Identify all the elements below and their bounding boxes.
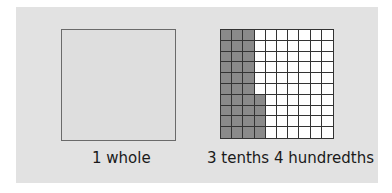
grid-cell bbox=[288, 84, 299, 95]
grid-cell bbox=[311, 73, 322, 84]
grid-cell bbox=[255, 116, 266, 127]
grid-cell bbox=[288, 116, 299, 127]
grid-cell bbox=[299, 62, 310, 73]
grid-cell bbox=[299, 84, 310, 95]
grid-cell bbox=[322, 30, 333, 41]
grid-cell bbox=[277, 30, 288, 41]
grid-cell bbox=[221, 127, 232, 138]
grid-cell bbox=[311, 41, 322, 52]
grid-cell bbox=[255, 95, 266, 106]
grid-cell bbox=[299, 41, 310, 52]
grid-cell bbox=[311, 116, 322, 127]
grid-cell bbox=[299, 116, 310, 127]
grid-cell bbox=[266, 73, 277, 84]
grid-cell bbox=[255, 127, 266, 138]
grid-cell bbox=[322, 41, 333, 52]
grid-cell bbox=[243, 116, 254, 127]
grid-cell bbox=[232, 41, 243, 52]
grid-cell bbox=[322, 62, 333, 73]
grid-cell bbox=[288, 106, 299, 117]
grid-cell bbox=[232, 84, 243, 95]
grid-cell bbox=[232, 52, 243, 63]
grid-cell bbox=[288, 73, 299, 84]
grid-label: 3 tenths 4 hundredths bbox=[207, 149, 374, 167]
grid-cell bbox=[288, 127, 299, 138]
grid-cell bbox=[266, 127, 277, 138]
grid-cell bbox=[288, 62, 299, 73]
grid-cell bbox=[311, 62, 322, 73]
grid-cell bbox=[221, 106, 232, 117]
grid-cell bbox=[255, 41, 266, 52]
grid-cell bbox=[277, 84, 288, 95]
grid-cell bbox=[299, 30, 310, 41]
grid-cell bbox=[266, 95, 277, 106]
whole-label: 1 whole bbox=[92, 149, 151, 167]
grid-cell bbox=[277, 41, 288, 52]
grid-cell bbox=[322, 73, 333, 84]
grid-cell bbox=[288, 52, 299, 63]
grid-cell bbox=[232, 127, 243, 138]
grid-cell bbox=[255, 106, 266, 117]
grid-cell bbox=[288, 95, 299, 106]
grid-cell bbox=[221, 84, 232, 95]
grid-cell bbox=[243, 106, 254, 117]
grid-cell bbox=[299, 73, 310, 84]
grid-cell bbox=[255, 30, 266, 41]
grid-cell bbox=[255, 84, 266, 95]
grid-cell bbox=[311, 52, 322, 63]
grid-cell bbox=[266, 116, 277, 127]
grid-cell bbox=[322, 106, 333, 117]
grid-cell bbox=[243, 84, 254, 95]
grid-cell bbox=[255, 62, 266, 73]
grid-cell bbox=[322, 95, 333, 106]
grid-cell bbox=[277, 106, 288, 117]
grid-cell bbox=[311, 30, 322, 41]
grid-cell bbox=[288, 41, 299, 52]
grid-cell bbox=[221, 30, 232, 41]
grid-cell bbox=[221, 62, 232, 73]
grid-cell bbox=[311, 95, 322, 106]
grid-cell bbox=[266, 41, 277, 52]
grid-cell bbox=[322, 127, 333, 138]
grid-cell bbox=[277, 95, 288, 106]
grid-cell bbox=[322, 84, 333, 95]
grid-cell bbox=[277, 62, 288, 73]
grid-cell bbox=[243, 62, 254, 73]
grid-cell bbox=[266, 106, 277, 117]
grid-cell bbox=[266, 52, 277, 63]
grid-cell bbox=[243, 127, 254, 138]
grid-cell bbox=[221, 73, 232, 84]
grid-cell bbox=[221, 41, 232, 52]
grid-cell bbox=[299, 95, 310, 106]
grid-cell bbox=[243, 30, 254, 41]
grid-cell bbox=[311, 106, 322, 117]
grid-cell bbox=[277, 73, 288, 84]
grid-cell bbox=[277, 116, 288, 127]
grid-cell bbox=[266, 30, 277, 41]
grid-cell bbox=[243, 52, 254, 63]
grid-cell bbox=[299, 106, 310, 117]
grid-cell bbox=[232, 62, 243, 73]
grid-cell bbox=[232, 116, 243, 127]
grid-cell bbox=[299, 52, 310, 63]
hundredths-grid bbox=[220, 29, 334, 139]
grid-cell bbox=[255, 52, 266, 63]
grid-cell bbox=[322, 116, 333, 127]
grid-cell bbox=[243, 95, 254, 106]
grid-cell bbox=[311, 127, 322, 138]
grid-cell bbox=[243, 73, 254, 84]
grid-cell bbox=[288, 30, 299, 41]
grid-cell bbox=[255, 73, 266, 84]
grid-cell bbox=[232, 95, 243, 106]
grid-cell bbox=[311, 84, 322, 95]
grid-cell bbox=[277, 127, 288, 138]
grid-cell bbox=[277, 52, 288, 63]
grid-cell bbox=[322, 52, 333, 63]
grid-cell bbox=[266, 84, 277, 95]
grid-cell bbox=[221, 95, 232, 106]
whole-square bbox=[61, 29, 176, 141]
grid-cell bbox=[221, 52, 232, 63]
grid-cell bbox=[243, 41, 254, 52]
grid-cell bbox=[266, 62, 277, 73]
grid-cell bbox=[221, 116, 232, 127]
